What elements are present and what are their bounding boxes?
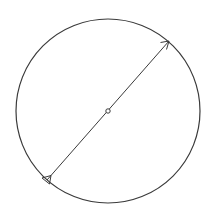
diagram-canvas bbox=[0, 0, 210, 216]
center-point bbox=[106, 109, 110, 113]
circle-diameter-diagram bbox=[0, 0, 210, 216]
